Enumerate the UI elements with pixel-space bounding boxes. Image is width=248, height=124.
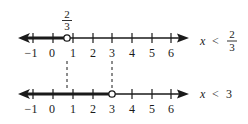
tick-label: 0 — [49, 46, 55, 60]
number-line-diagram: 2 3 −1 0 1 2 3 4 5 6 x < 2 3 — [0, 0, 248, 124]
tick-label: 6 — [168, 102, 174, 116]
top-open-endpoint — [64, 35, 70, 41]
tick-label: 0 — [49, 102, 55, 116]
bottom-tick-labels: −1 0 1 2 3 4 5 6 — [25, 102, 174, 116]
tick-label: 5 — [149, 102, 155, 116]
bottom-open-endpoint — [109, 91, 115, 97]
tick-label: 3 — [109, 102, 115, 116]
top-tick-labels: −1 0 1 2 3 4 5 6 — [25, 46, 174, 60]
tick-label: 4 — [129, 46, 135, 60]
top-inequality-label: x < 2 3 — [199, 28, 237, 53]
fraction-numerator: 2 — [64, 8, 70, 20]
tick-label: 1 — [70, 102, 76, 116]
tick-label: 2 — [90, 102, 96, 116]
fraction-denominator: 3 — [64, 20, 70, 32]
tick-label: 6 — [168, 46, 174, 60]
top-number-line: 2 3 −1 0 1 2 3 4 5 6 x < 2 3 — [18, 8, 237, 60]
tick-label: 4 — [129, 102, 135, 116]
inequality-operator: < — [212, 87, 219, 101]
top-endpoint-fraction: 2 3 — [62, 8, 72, 32]
tick-label: −1 — [25, 102, 38, 116]
inequality-variable: x — [199, 34, 206, 48]
inequality-numerator: 2 — [229, 28, 235, 40]
tick-label: 2 — [90, 46, 96, 60]
tick-label: 5 — [149, 46, 155, 60]
tick-label: −1 — [25, 46, 38, 60]
bottom-inequality-label: x < 3 — [199, 87, 232, 101]
inequality-denominator: 3 — [229, 41, 235, 53]
inequality-rhs: 3 — [226, 87, 232, 101]
inequality-variable: x — [199, 87, 206, 101]
tick-label: 3 — [109, 46, 115, 60]
inequality-operator: < — [212, 34, 219, 48]
bottom-number-line: −1 0 1 2 3 4 5 6 x < 3 — [18, 87, 232, 116]
dashed-connectors — [67, 61, 112, 89]
tick-label: 1 — [70, 46, 76, 60]
